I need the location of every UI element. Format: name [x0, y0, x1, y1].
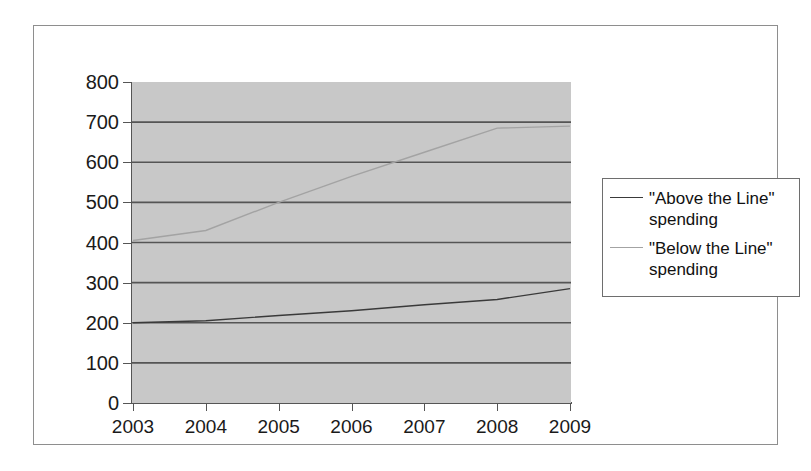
x-axis-tick-label: 2006 — [320, 417, 384, 436]
legend-line-swatch-icon — [610, 188, 643, 206]
y-axis-tick — [123, 323, 132, 324]
x-axis-tick — [206, 403, 207, 411]
y-axis-tick-label: 700 — [63, 112, 119, 132]
y-axis-tick-label: 500 — [63, 192, 119, 212]
series-line-1 — [133, 126, 570, 240]
legend-label: "Below the Line" spending — [649, 238, 797, 281]
y-axis-tick — [123, 243, 132, 244]
x-axis-tick — [424, 403, 425, 411]
x-axis-tick — [497, 403, 498, 411]
x-axis-tick-label: 2008 — [465, 417, 529, 436]
y-axis-tick-label: 400 — [63, 233, 119, 253]
x-axis-tick-label: 2005 — [247, 417, 311, 436]
x-axis-tick-label: 2009 — [538, 417, 602, 436]
y-axis-tick-label: 200 — [63, 313, 119, 333]
series-line-0 — [133, 289, 570, 323]
y-axis-tick — [123, 283, 132, 284]
chart-legend: "Above the Line" spending"Below the Line… — [602, 178, 800, 297]
y-axis-tick-label: 600 — [63, 152, 119, 172]
y-axis-tick — [123, 162, 132, 163]
chart-frame: 0100200300400500600700800 "Above the Lin… — [33, 25, 778, 445]
y-axis-tick — [123, 363, 132, 364]
x-axis-tick — [133, 403, 134, 411]
y-axis-tick — [123, 403, 132, 404]
legend-entry[interactable]: "Above the Line" spending — [603, 188, 799, 231]
plot-area — [132, 82, 571, 403]
legend-line-swatch-icon — [610, 238, 643, 256]
y-axis-tick — [123, 82, 132, 83]
legend-entry[interactable]: "Below the Line" spending — [603, 238, 799, 281]
data-series-layer — [132, 82, 571, 403]
y-axis-tick-label: 300 — [63, 273, 119, 293]
y-axis-tick — [123, 202, 132, 203]
y-axis-tick-label: 0 — [63, 393, 119, 413]
x-axis-tick — [279, 403, 280, 411]
y-axis-tick-label: 800 — [63, 72, 119, 92]
x-axis-tick — [352, 403, 353, 411]
y-axis-tick — [123, 122, 132, 123]
x-axis-tick — [570, 403, 571, 411]
x-axis-tick-label: 2003 — [101, 417, 165, 436]
x-axis-tick-label: 2004 — [174, 417, 238, 436]
legend-label: "Above the Line" spending — [649, 188, 797, 231]
y-axis-tick-label: 100 — [63, 353, 119, 373]
x-axis-tick-label: 2007 — [392, 417, 456, 436]
y-axis-labels: 0100200300400500600700800 — [63, 26, 119, 446]
